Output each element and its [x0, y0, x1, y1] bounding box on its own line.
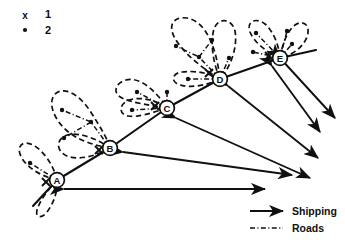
port-label-D: D [217, 74, 224, 85]
settlement-marker-11 [186, 77, 190, 81]
line-key-label-roads: Roads [292, 222, 324, 234]
road-segment-1 [62, 110, 110, 148]
settlement-marker-3 [62, 136, 66, 140]
dot-marker-icon [23, 28, 27, 32]
settlement-marker-1 [60, 108, 64, 112]
diagram-canvas: ABCDE x 1 2 Shipping Roads [0, 0, 345, 240]
settlement-markers [28, 29, 294, 165]
shipping-routes [64, 58, 335, 189]
symbol-key-glyph-0: x [22, 10, 28, 21]
settlement-marker-12 [254, 31, 258, 35]
settlement-marker-0 [28, 161, 32, 165]
symbol-key-label-1: 2 [45, 24, 51, 36]
line-key-label-shipping: Shipping [292, 205, 337, 217]
settlement-marker-9 [210, 38, 214, 42]
settlement-marker-5 [165, 90, 169, 94]
line-key-legend: Shipping Roads [250, 205, 337, 234]
settlement-marker-13 [285, 29, 289, 33]
settlement-marker-7 [174, 44, 178, 48]
port-label-E: E [277, 53, 283, 64]
settlement-marker-8 [197, 55, 201, 59]
settlement-marker-14 [251, 50, 255, 54]
port-hinterland-diagram: ABCDE x 1 2 Shipping Roads [0, 0, 345, 240]
road-segment-7 [199, 40, 212, 57]
hinterland-boundaries [19, 18, 308, 217]
symbol-key-label-0: 1 [45, 8, 51, 20]
coastline [33, 50, 316, 206]
hinterland-boundary-D [212, 21, 235, 79]
settlement-marker-4 [135, 90, 139, 94]
shipping-route-B [123, 152, 292, 175]
port-label-B: B [107, 143, 114, 154]
settlement-marker-2 [89, 120, 93, 124]
symbol-key-legend: x 1 2 [22, 8, 51, 36]
port-label-C: C [164, 103, 171, 114]
settlement-marker-15 [290, 42, 294, 46]
settlement-marker-6 [130, 108, 134, 112]
port-label-A: A [54, 175, 61, 186]
settlement-marker-10 [227, 56, 231, 60]
